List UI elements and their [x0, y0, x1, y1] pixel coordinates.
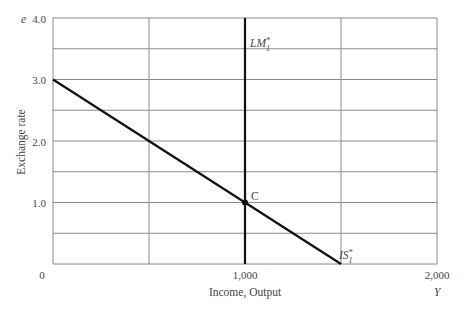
- equilibrium-point: [242, 200, 248, 206]
- x-axis-label: Income, Output: [209, 286, 282, 299]
- y-tick-4: 4.0: [32, 13, 46, 25]
- equilibrium-label: C: [251, 190, 259, 202]
- y-tick-2: 2.0: [32, 136, 46, 148]
- chart: e 4.0 3.0 2.0 1.0 Exchange rate 0 1,000 …: [0, 0, 464, 310]
- y-tick-3: 3.0: [32, 74, 46, 86]
- lm-curve-label: LM*1: [249, 36, 270, 53]
- x-axis-symbol: Y: [434, 286, 442, 298]
- x-tick-1000: 1,000: [233, 269, 258, 281]
- y-axis-label: Exchange rate: [15, 109, 28, 174]
- x-tick-0: 0: [39, 269, 45, 281]
- y-axis-symbol: e: [21, 13, 26, 25]
- x-tick-2000: 2,000: [425, 269, 450, 281]
- y-tick-1: 1.0: [32, 197, 46, 209]
